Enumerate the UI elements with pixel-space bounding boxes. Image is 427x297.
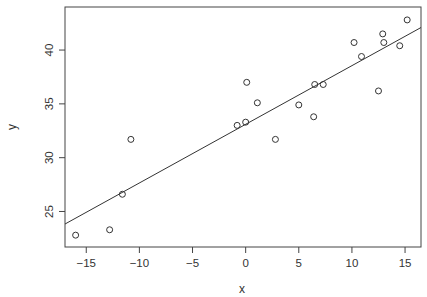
- data-point: [351, 40, 357, 46]
- regression-line: [65, 28, 421, 224]
- y-tick-label: 35: [43, 97, 55, 110]
- y-tick-label: 30: [43, 151, 55, 164]
- data-point: [234, 122, 240, 128]
- data-point: [381, 40, 387, 46]
- x-tick-label: −5: [186, 257, 199, 269]
- data-point: [380, 31, 386, 37]
- x-tick-label: −15: [76, 257, 96, 269]
- y-tick-label: 40: [43, 44, 55, 57]
- data-point: [244, 79, 250, 85]
- data-point: [73, 232, 79, 238]
- scatter-plot: −15−10−5051015 25303540 x y: [0, 0, 427, 297]
- data-point: [320, 81, 326, 87]
- x-tick-label: −10: [130, 257, 150, 269]
- x-tick-label: 5: [296, 257, 302, 269]
- data-point: [358, 54, 364, 60]
- x-tick-label: 0: [242, 257, 248, 269]
- data-point: [397, 43, 403, 49]
- data-point: [272, 136, 278, 142]
- plot-frame: [65, 7, 421, 247]
- data-point: [107, 227, 113, 233]
- x-axis: −15−10−5051015: [76, 247, 411, 269]
- x-tick-label: 15: [399, 257, 412, 269]
- y-axis-title: y: [5, 124, 19, 130]
- data-point: [254, 100, 260, 106]
- x-tick-label: 10: [346, 257, 359, 269]
- data-point: [404, 17, 410, 23]
- y-axis: 25303540: [43, 44, 65, 218]
- data-point: [311, 114, 317, 120]
- data-point: [375, 88, 381, 94]
- data-point: [128, 136, 134, 142]
- data-points: [73, 17, 411, 238]
- y-tick-label: 25: [43, 205, 55, 218]
- x-axis-title: x: [239, 282, 245, 296]
- data-point: [296, 102, 302, 108]
